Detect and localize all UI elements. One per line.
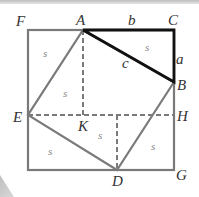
pythagoras-diagram: F A C B H G D E K b a c s s s s s s	[0, 0, 199, 197]
area-label-s: s	[98, 129, 102, 141]
area-label-s: s	[151, 140, 155, 152]
label-G: G	[176, 167, 187, 183]
label-side-a: a	[176, 51, 184, 67]
area-label-s: s	[63, 87, 67, 99]
label-A: A	[75, 12, 86, 28]
label-K: K	[77, 118, 89, 134]
label-E: E	[12, 109, 22, 125]
label-side-b: b	[128, 12, 136, 28]
label-side-c: c	[122, 55, 129, 71]
area-label-s: s	[48, 145, 52, 157]
label-B: B	[177, 77, 186, 93]
label-C: C	[168, 12, 179, 28]
label-F: F	[15, 13, 26, 29]
label-H: H	[176, 108, 189, 124]
label-D: D	[111, 173, 123, 189]
area-label-s: s	[43, 47, 47, 59]
area-label-s: s	[145, 41, 149, 53]
